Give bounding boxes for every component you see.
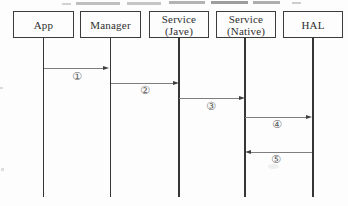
arrowhead-right-icon (306, 115, 312, 119)
actor-label: Service (162, 13, 196, 25)
message-5-line (251, 152, 312, 153)
actor-box-service-java: Service (Jave) (149, 11, 209, 38)
message-1-label: ① (67, 71, 87, 82)
message-1-line (44, 68, 104, 69)
actor-box-hal: HAL (283, 11, 343, 38)
actor-label: App (34, 19, 54, 31)
message-3-label: ③ (201, 101, 221, 112)
actor-box-service-native: Service (Native) (216, 11, 276, 38)
cropped-text-artifact (62, 3, 71, 5)
actor-label: Manager (90, 19, 131, 31)
lifeline-hal (312, 38, 314, 197)
scan-speck (0, 87, 3, 89)
arrowhead-right-icon (173, 81, 179, 85)
cropped-text-artifact (169, 1, 205, 4)
arrowhead-right-icon (103, 66, 109, 70)
actor-label: (Jave) (165, 25, 193, 37)
message-3-line (179, 98, 239, 99)
lifeline-app (43, 38, 45, 197)
cropped-text-artifact (292, 2, 301, 4)
actor-box-manager: Manager (80, 11, 141, 38)
message-2-label: ② (135, 85, 155, 96)
actor-box-app: App (13, 11, 74, 38)
cropped-text-artifact (76, 2, 120, 5)
message-4-label: ④ (267, 119, 287, 130)
lifeline-manager (110, 38, 112, 197)
scan-speck (1, 168, 4, 171)
cropped-text-artifact (211, 1, 248, 4)
actor-label: HAL (301, 19, 324, 31)
cropped-text-artifact (127, 2, 161, 5)
actor-label: (Native) (227, 25, 265, 37)
lifeline-service-java (178, 38, 180, 197)
arrowhead-left-icon (245, 150, 251, 154)
arrowhead-right-icon (239, 96, 245, 100)
message-5-label: ⑤ (266, 154, 286, 165)
cropped-text-artifact (253, 1, 280, 4)
sequence-diagram: App Manager Service (Jave) Service (Nati… (0, 0, 348, 206)
actor-label: Service (229, 13, 263, 25)
